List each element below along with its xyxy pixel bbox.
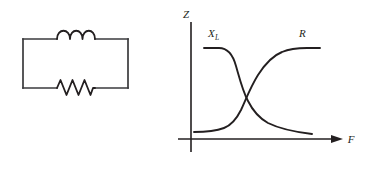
x-axis-arrowhead	[331, 135, 343, 143]
curve-inductive-reactance	[204, 48, 312, 134]
inductor-coil	[57, 31, 95, 39]
y-axis-label: Z	[183, 8, 190, 20]
figure-canvas: Z F X L R	[0, 0, 375, 175]
curve-label-x-subscript: L	[214, 33, 219, 42]
circuit-diagram-panel	[23, 31, 128, 95]
figure-root: Z F X L R	[0, 0, 375, 175]
impedance-graph-panel: Z F X L R	[178, 8, 355, 152]
resistor-zigzag	[57, 80, 95, 95]
x-axis-label: F	[347, 133, 355, 145]
inductor-symbol	[57, 31, 95, 39]
curve-resistance	[194, 48, 320, 132]
curve-label-resistance: R	[298, 27, 306, 39]
curve-label-inductive-reactance: X L	[207, 27, 219, 42]
resistor-symbol	[57, 80, 95, 95]
